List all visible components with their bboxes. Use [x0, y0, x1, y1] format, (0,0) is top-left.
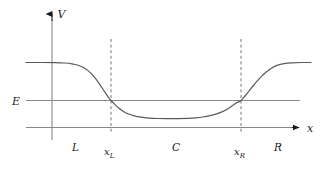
potential-curve — [26, 62, 311, 118]
left-region-label: L — [71, 141, 79, 153]
y-axis-label: V — [58, 8, 67, 21]
x-right-boundary-label: xR — [234, 146, 246, 160]
energy-level-label: E — [11, 95, 20, 108]
potential-well-figure: V x E L C R xL xR — [0, 0, 323, 171]
center-region-label: C — [172, 141, 180, 153]
right-region-label: R — [273, 141, 282, 153]
x-left-sub: L — [109, 152, 115, 160]
x-left-boundary-label: xL — [104, 146, 115, 160]
x-right-sub: R — [239, 152, 246, 160]
x-axis-label: x — [307, 122, 314, 135]
figure-canvas: V x E L C R xL xR — [0, 0, 323, 171]
